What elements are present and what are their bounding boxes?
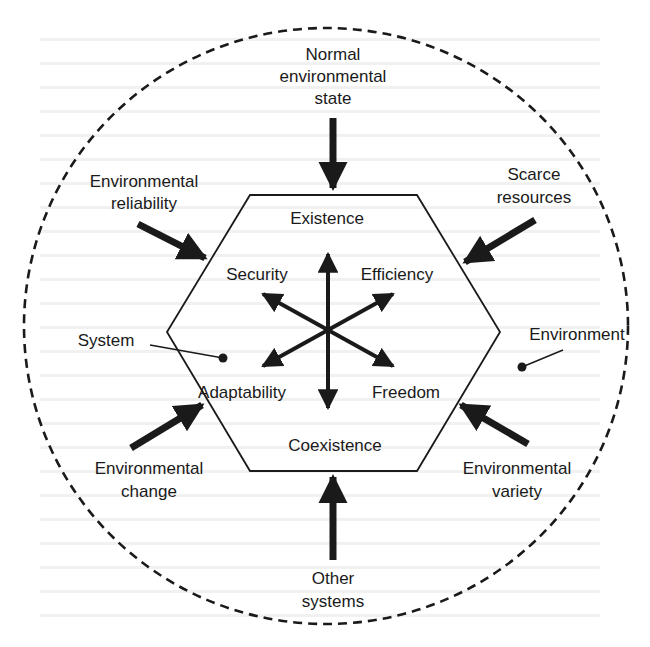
svg-text:Normal: Normal	[306, 45, 361, 64]
system-leader-line	[150, 345, 223, 358]
star-arrow-lower-left-icon	[263, 330, 328, 366]
label-security: Security	[226, 265, 288, 284]
svg-text:reliability: reliability	[111, 194, 178, 213]
svg-text:Environmental: Environmental	[463, 459, 572, 478]
svg-text:resources: resources	[497, 188, 572, 207]
label-environmental-variety: Environmental variety	[463, 459, 572, 501]
label-existence: Existence	[290, 209, 364, 228]
diagram-canvas: Existence Coexistence Security Efficienc…	[0, 0, 650, 647]
label-efficiency: Efficiency	[361, 265, 434, 284]
svg-text:environmental: environmental	[280, 67, 387, 86]
arrow-lower-right-input-icon	[461, 405, 528, 444]
label-scarce-resources: Scarce resources	[497, 165, 572, 207]
arrow-lower-left-input-icon	[131, 405, 202, 448]
label-normal-environmental-state: Normal environmental state	[280, 45, 387, 108]
svg-text:Scarce: Scarce	[508, 165, 561, 184]
label-adaptability: Adaptability	[198, 383, 286, 402]
label-environmental-change: Environmental change	[95, 459, 204, 501]
svg-text:variety: variety	[492, 482, 543, 501]
svg-text:state: state	[315, 89, 352, 108]
svg-text:systems: systems	[302, 592, 364, 611]
label-environment: Environment	[529, 325, 625, 344]
environment-leader-line	[522, 350, 563, 367]
svg-text:Environmental: Environmental	[95, 459, 204, 478]
star-arrow-upper-left-icon	[263, 294, 328, 330]
label-other-systems: Other systems	[302, 569, 364, 611]
arrow-upper-right-input-icon	[465, 220, 535, 262]
environment-leader-dot	[518, 363, 527, 372]
star-arrow-lower-right-icon	[328, 330, 393, 366]
svg-text:Other: Other	[312, 569, 355, 588]
arrow-upper-left-input-icon	[138, 224, 205, 258]
label-system: System	[78, 331, 135, 350]
svg-text:change: change	[121, 482, 177, 501]
label-coexistence: Coexistence	[288, 436, 382, 455]
system-leader-dot	[219, 354, 228, 363]
star-arrow-upper-right-icon	[328, 294, 393, 330]
label-environmental-reliability: Environmental reliability	[90, 172, 199, 213]
svg-text:Environmental: Environmental	[90, 172, 199, 191]
label-freedom: Freedom	[372, 383, 440, 402]
